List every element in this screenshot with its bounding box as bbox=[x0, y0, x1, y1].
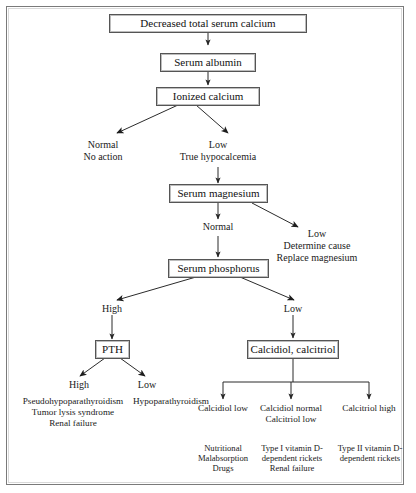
label-magnesium-low: Low Determine cause Replace magnesium bbox=[255, 228, 379, 263]
node-serum-albumin: Serum albumin bbox=[160, 53, 256, 72]
label-calcitriol-high-causes: Type II vitamin D- dependent rickets bbox=[332, 443, 408, 463]
node-serum-phosphorus: Serum phosphorus bbox=[168, 259, 269, 278]
node-pth: PTH bbox=[95, 340, 130, 359]
node-label: Decreased total serum calcium bbox=[110, 15, 306, 32]
label-calcidiol-normal-calcitriol-low: Calcidiol normal Calcitriol low bbox=[249, 403, 333, 425]
label-normal-no-action: Normal No action bbox=[55, 139, 151, 163]
label-pth-high: High bbox=[55, 379, 103, 391]
label-calcidiol-normal-causes: Type I vitamin D- dependent rickets Rena… bbox=[252, 443, 332, 473]
node-label: Calcidiol, calcitriol bbox=[248, 341, 338, 358]
label-magnesium-normal: Normal bbox=[183, 221, 253, 233]
node-label: PTH bbox=[96, 341, 129, 358]
node-label: Serum phosphorus bbox=[169, 260, 268, 277]
node-label: Serum albumin bbox=[161, 54, 255, 71]
node-ionized-calcium: Ionized calcium bbox=[156, 87, 260, 106]
diagram-canvas: Decreased total serum calcium Serum albu… bbox=[0, 0, 416, 493]
node-label: Serum magnesium bbox=[170, 185, 267, 202]
node-decreased-total-serum-calcium: Decreased total serum calcium bbox=[109, 14, 307, 33]
label-low-true-hypocalcemia: Low True hypocalcemia bbox=[160, 139, 276, 163]
label-calcitriol-high: Calcitriol high bbox=[331, 403, 407, 414]
label-calcidiol-low-causes: Nutritional Malabsorption Drugs bbox=[185, 443, 261, 473]
node-calcidiol-calcitriol: Calcidiol, calcitriol bbox=[247, 340, 339, 359]
label-phosphorus-high: High bbox=[87, 303, 137, 315]
node-label: Ionized calcium bbox=[157, 88, 259, 105]
label-pth-low: Low bbox=[123, 379, 171, 391]
node-serum-magnesium: Serum magnesium bbox=[169, 184, 268, 203]
label-phosphorus-low: Low bbox=[268, 303, 318, 315]
